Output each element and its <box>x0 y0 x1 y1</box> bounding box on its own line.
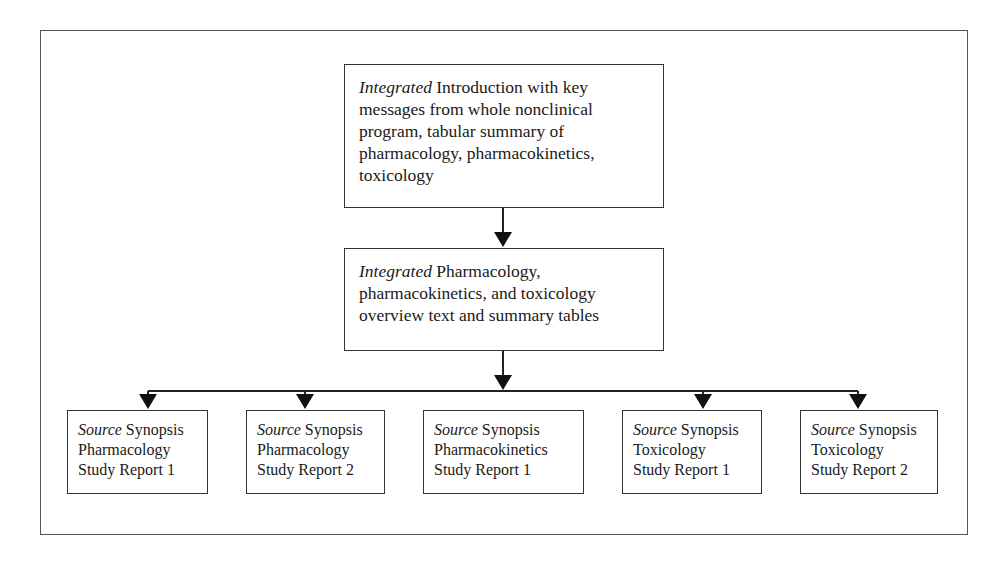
arrow-head-icon <box>139 394 157 409</box>
source-box-pharmacology-1: Source Synopsis Pharmacology Study Repor… <box>67 410 208 494</box>
arrow-head-icon <box>849 394 867 409</box>
arrow-head-icon <box>494 375 512 390</box>
source-box-toxicology-2: Source Synopsis Toxicology Study Report … <box>800 410 938 494</box>
emphasis-text: Integrated <box>359 77 432 97</box>
arrow-head-icon <box>494 232 512 247</box>
source-box-pharmacokinetics-1: Source Synopsis Pharmacokinetics Study R… <box>423 410 584 494</box>
source-box-pharmacology-2: Source Synopsis Pharmacology Study Repor… <box>246 410 385 494</box>
integrated-introduction-box: Integrated Introduction with key message… <box>344 64 664 208</box>
integrated-overview-box: Integrated Pharmacology, pharmacokinetic… <box>344 248 664 351</box>
arrow-head-icon <box>694 394 712 409</box>
source-box-toxicology-1: Source Synopsis Toxicology Study Report … <box>622 410 762 494</box>
arrow-head-icon <box>296 394 314 409</box>
emphasis-text: Integrated <box>359 261 432 281</box>
